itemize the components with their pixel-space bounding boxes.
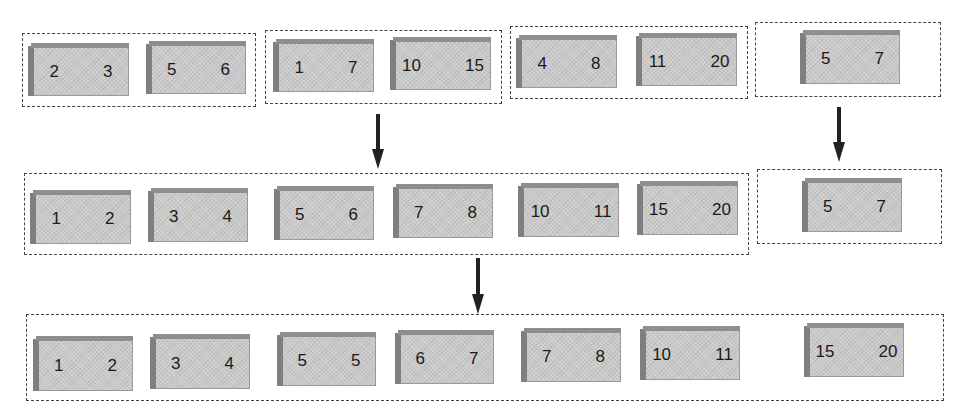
block: 5 6 — [274, 186, 374, 240]
block: 1 7 — [273, 39, 374, 92]
block-label: 1 7 — [279, 44, 374, 92]
down-arrow-icon — [372, 114, 384, 169]
block-label: 15 20 — [643, 186, 738, 235]
block-label: 10 11 — [524, 188, 619, 237]
block: 1 2 — [33, 336, 133, 391]
block-label: 1 2 — [36, 195, 131, 244]
block-label: 5 5 — [283, 337, 376, 386]
block: 1 2 — [30, 190, 131, 244]
block-label: 3 4 — [156, 339, 250, 389]
block-label: 5 6 — [152, 46, 246, 94]
block-label: 10 15 — [396, 42, 491, 90]
block: 10 15 — [390, 37, 491, 90]
block: 3 4 — [150, 334, 250, 389]
block: 7 8 — [393, 184, 493, 238]
block: 15 20 — [804, 323, 904, 377]
block-label: 7 8 — [399, 189, 493, 238]
block: 2 3 — [28, 43, 129, 96]
block: 11 20 — [636, 33, 737, 86]
block-label: 4 8 — [522, 40, 617, 88]
block: 5 6 — [146, 41, 246, 94]
block-label: 2 3 — [34, 48, 129, 96]
block-label: 5 7 — [806, 35, 900, 84]
block: 3 4 — [148, 188, 248, 242]
block-label: 3 4 — [154, 193, 248, 242]
block-label: 1 2 — [39, 341, 133, 391]
block: 5 7 — [802, 178, 902, 232]
block: 6 7 — [395, 330, 494, 384]
block: 10 11 — [640, 326, 740, 380]
block-label: 6 7 — [401, 335, 494, 384]
block-label: 5 6 — [280, 191, 374, 240]
block: 5 5 — [277, 332, 376, 386]
block: 10 11 — [518, 183, 619, 237]
down-arrow-icon — [472, 258, 484, 314]
block: 7 8 — [521, 328, 621, 382]
block-label: 11 20 — [642, 38, 737, 86]
down-arrow-icon — [833, 107, 845, 162]
block-label: 7 8 — [527, 333, 621, 382]
block: 15 20 — [637, 181, 738, 235]
block-label: 10 11 — [646, 331, 740, 380]
block: 5 7 — [800, 30, 900, 84]
block-label: 5 7 — [808, 183, 902, 232]
block-label: 15 20 — [810, 328, 904, 377]
block: 4 8 — [516, 35, 617, 88]
